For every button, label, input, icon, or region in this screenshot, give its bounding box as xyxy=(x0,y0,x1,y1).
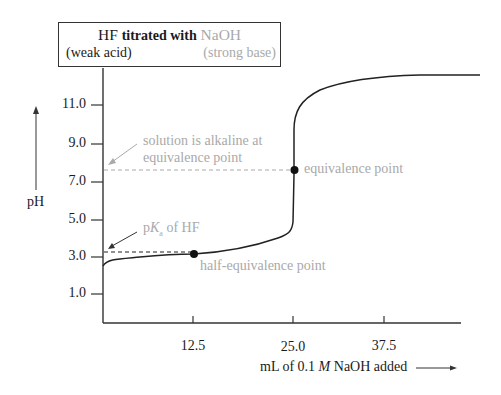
title-titrant: NaOH xyxy=(201,26,241,43)
x-tick-marks xyxy=(193,316,384,323)
ph-axis-arrow xyxy=(33,106,39,190)
x-tick-label: 12.5 xyxy=(173,338,213,354)
equivalence-point-marker xyxy=(291,166,299,174)
y-tick-label: 1.0 xyxy=(46,285,86,301)
y-tick-marks xyxy=(91,105,103,294)
y-tick-label: 11.0 xyxy=(46,96,86,112)
title-connector: titrated with xyxy=(122,28,197,43)
title-titrant-note: (strong base) xyxy=(203,45,276,61)
title-analyte: HF xyxy=(98,26,118,43)
alkaline-annotation-line1: solution is alkaline at xyxy=(143,133,262,149)
x-axis-label-suffix: NaOH added xyxy=(334,359,407,374)
pka-rest: of HF xyxy=(163,220,200,235)
half-equivalence-point-label: half-equivalence point xyxy=(200,258,326,274)
y-tick-label: 7.0 xyxy=(46,173,86,189)
y-tick-label: 3.0 xyxy=(46,248,86,264)
pka-k: K xyxy=(150,220,159,235)
y-tick-label: 5.0 xyxy=(46,211,86,227)
y-tick-label: 9.0 xyxy=(46,135,86,151)
x-tick-label: 37.5 xyxy=(364,338,404,354)
alkaline-annotation-line2: equivalence point xyxy=(143,150,242,166)
volume-axis-arrow xyxy=(416,366,457,371)
pka-annotation-label: pKa of HF xyxy=(143,220,199,238)
chart-title-box: HF titrated with NaOH (weak acid) (stron… xyxy=(58,22,281,67)
equivalence-point-label: equivalence point xyxy=(304,161,403,177)
pka-p: p xyxy=(143,220,150,235)
x-axis-label: mL of 0.1 M NaOH added xyxy=(260,359,407,375)
y-axis-label: pH xyxy=(27,194,44,210)
title-analyte-note: (weak acid) xyxy=(66,45,132,61)
x-axis-label-molarity: M xyxy=(319,359,331,374)
x-axis-label-prefix: mL of 0.1 xyxy=(260,359,315,374)
x-tick-label: 25.0 xyxy=(273,339,313,355)
pka-annotation-arrow xyxy=(108,232,137,249)
chart-title: HF titrated with NaOH xyxy=(59,26,280,44)
alkaline-annotation-arrow xyxy=(108,144,137,165)
half-equivalence-point-marker xyxy=(190,250,198,258)
